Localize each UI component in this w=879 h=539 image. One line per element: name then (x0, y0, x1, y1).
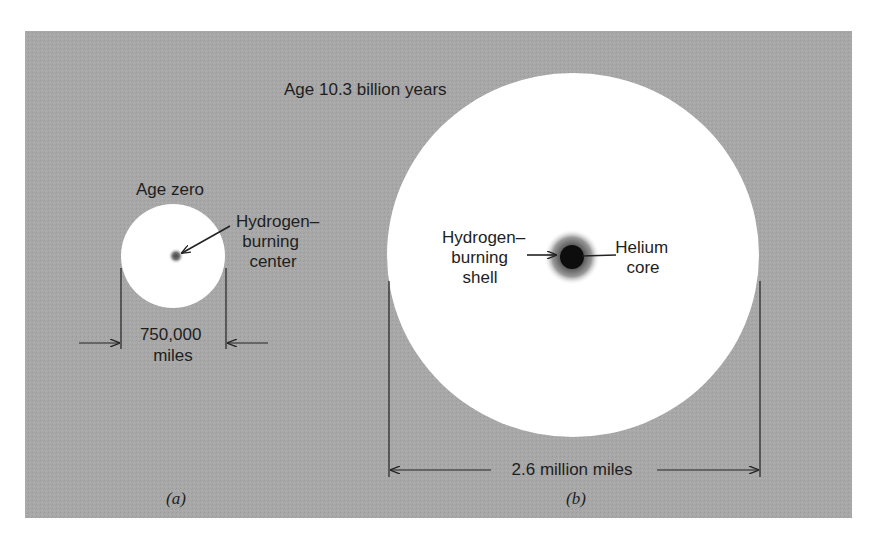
hydrogen-burning-center-icon (168, 248, 184, 264)
panel-a-caption: (a) (166, 489, 186, 508)
panel-b-caption: (b) (566, 489, 586, 508)
panel-a-title: Age zero (136, 180, 204, 199)
stellar-evolution-figure: Age zero Hydrogen– burning center 750,00… (0, 0, 879, 539)
red-giant-diameter-label: 2.6 million miles (512, 460, 633, 479)
panel-b-title: Age 10.3 billion years (284, 80, 447, 99)
helium-core-icon (560, 245, 584, 269)
core-pointer-line (582, 255, 616, 256)
